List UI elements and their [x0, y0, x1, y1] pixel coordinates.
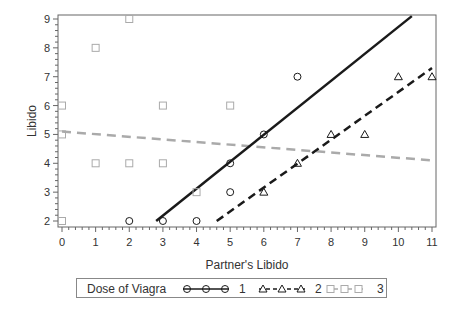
data-point-square	[92, 44, 99, 51]
triangle-dashed-line-icon	[257, 279, 307, 299]
y-tick-label: 9	[44, 13, 50, 25]
data-point-square	[227, 102, 234, 109]
data-point-circle	[126, 218, 133, 225]
x-tick-label: 1	[93, 236, 99, 248]
x-tick-label: 11	[426, 236, 437, 248]
data-point-square	[126, 160, 133, 167]
x-tick-label: 3	[160, 236, 166, 248]
data-point-triangle	[428, 73, 436, 80]
scatter-plot: 0123456789101123456789Partner's LibidoLi…	[0, 0, 461, 315]
data-point-circle	[159, 218, 166, 225]
data-point-circle	[294, 73, 301, 80]
y-tick-label: 5	[44, 128, 50, 140]
legend-label-2: 2	[315, 282, 322, 296]
x-tick-label: 8	[328, 236, 334, 248]
x-tick-label: 4	[193, 236, 199, 248]
square-dashed-line-icon	[325, 279, 365, 299]
data-point-triangle	[361, 130, 369, 137]
fit-line-series-3	[62, 132, 432, 161]
fit-line-series-2	[217, 68, 432, 221]
legend-entry-1: 1	[181, 279, 261, 299]
data-point-square	[59, 102, 66, 109]
x-tick-label: 5	[227, 236, 233, 248]
y-tick-label: 8	[44, 42, 50, 54]
legend-title: Dose of Viagra	[87, 282, 166, 296]
fit-line-series-1	[156, 16, 412, 221]
legend-label-1: 1	[239, 282, 246, 296]
x-tick-label: 6	[261, 236, 267, 248]
x-axis-label: Partner's Libido	[205, 258, 288, 272]
x-tick-label: 2	[126, 236, 132, 248]
legend-entry-3: 3	[325, 279, 385, 299]
data-point-triangle	[394, 73, 402, 80]
data-point-square	[126, 16, 133, 23]
legend-label-3: 3	[377, 282, 384, 296]
x-tick-label: 0	[59, 236, 65, 248]
x-tick-label: 9	[362, 236, 368, 248]
x-tick-label: 10	[392, 236, 404, 248]
legend: Dose of Viagra 1 2 3	[76, 278, 387, 298]
x-tick-label: 7	[294, 236, 300, 248]
data-point-circle	[227, 189, 234, 196]
y-tick-label: 7	[44, 71, 50, 83]
plot-frame	[58, 15, 436, 227]
data-point-square	[159, 160, 166, 167]
data-point-circle	[193, 218, 200, 225]
y-tick-label: 2	[44, 215, 50, 227]
y-tick-label: 6	[44, 100, 50, 112]
y-axis-label: Libido	[25, 105, 39, 137]
y-tick-label: 3	[44, 186, 50, 198]
data-point-square	[59, 218, 66, 225]
circle-solid-line-icon	[181, 279, 231, 299]
data-point-square	[92, 160, 99, 167]
y-tick-label: 4	[44, 157, 50, 169]
data-point-square	[159, 102, 166, 109]
